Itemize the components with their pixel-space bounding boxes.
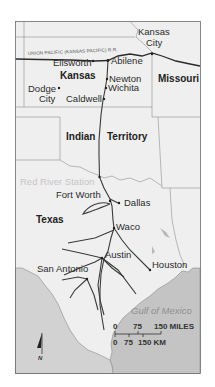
city-dot-kansas-city <box>151 53 153 55</box>
region-label-territory: Territory <box>107 132 147 142</box>
red-river-station-label: Red River Station <box>20 177 94 187</box>
city-label-san-antonio: San Antonio <box>37 264 88 274</box>
city-dot-red-river-station <box>98 176 100 178</box>
city-dot-newton <box>106 78 108 80</box>
city-label-wichita: Wichita <box>108 83 139 93</box>
city-dot-dodge-city <box>58 87 60 89</box>
scale-km-75: 75 <box>124 339 133 347</box>
city-dot-san-antonio <box>86 278 88 280</box>
gulf-of-mexico-label: Gulf of Mexico <box>131 306 192 316</box>
scale-miles-0: 0 <box>113 323 117 331</box>
city-label-kansas-city: Kansas <box>138 27 170 37</box>
city-label-fort-worth: Fort Worth <box>56 190 101 200</box>
city-label-ellsworth: Ellsworth <box>53 58 92 68</box>
city-dot-houston <box>149 269 151 271</box>
scale-miles-150: 150 MILES <box>154 323 194 331</box>
scale-miles-75: 75 <box>133 323 142 331</box>
city-label-houston: Houston <box>152 260 187 270</box>
city-label-abilene: Abilene <box>111 56 143 66</box>
city-dot-caldwell <box>103 98 105 100</box>
north-arrow-label: N <box>38 355 42 361</box>
city-dot-wichita <box>105 87 107 89</box>
city-label-waco: Waco <box>116 222 140 232</box>
city-label-dallas: Dallas <box>124 198 150 208</box>
scale-km-0: 0 <box>113 339 117 347</box>
city-dot-fort-worth <box>109 200 111 202</box>
city-dot-ellsworth <box>92 60 94 62</box>
scale-km-150: 150 KM <box>138 339 166 347</box>
city-dot-austin <box>101 257 103 259</box>
region-label-missouri: Missouri <box>158 74 199 84</box>
city-dot-dallas <box>118 202 120 204</box>
city-label-caldwell: Caldwell <box>66 94 102 104</box>
city-label-austin: Austin <box>105 250 131 260</box>
region-label-kansas: Kansas <box>60 71 96 81</box>
region-label-texas: Texas <box>36 215 64 225</box>
city-label-dodge-city: City <box>39 94 55 104</box>
city-dot-abilene <box>107 59 110 62</box>
city-label-kansas-city-2: City <box>146 38 162 48</box>
region-label-indian: Indian <box>66 132 95 142</box>
city-dot-waco <box>113 227 115 229</box>
